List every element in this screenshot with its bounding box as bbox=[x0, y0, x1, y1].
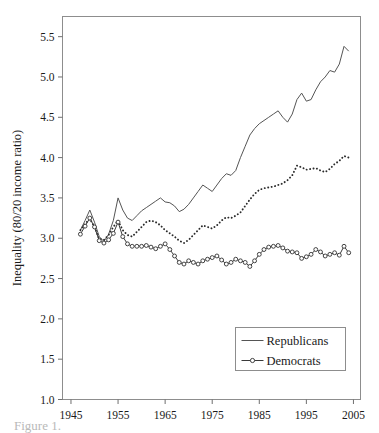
series-marker bbox=[196, 262, 200, 266]
series-marker bbox=[337, 253, 341, 257]
series-marker bbox=[234, 257, 238, 261]
series-marker bbox=[215, 254, 219, 258]
series-marker bbox=[83, 224, 87, 228]
series-marker bbox=[295, 251, 299, 255]
series-marker bbox=[149, 245, 153, 249]
y-tick-label: 3.5 bbox=[40, 192, 55, 204]
series-marker bbox=[309, 252, 313, 256]
series-marker bbox=[257, 252, 261, 256]
series-marker bbox=[220, 258, 224, 262]
series-marker bbox=[144, 244, 148, 248]
series-marker bbox=[201, 259, 205, 263]
x-tick-label: 1975 bbox=[201, 409, 224, 421]
series-marker bbox=[281, 246, 285, 250]
series-marker bbox=[206, 257, 210, 261]
series-marker bbox=[276, 244, 280, 248]
legend-label: Republicans bbox=[267, 334, 329, 348]
series-marker bbox=[107, 238, 111, 242]
x-tick-label: 2005 bbox=[342, 409, 365, 421]
series-marker bbox=[140, 244, 144, 248]
x-tick-label: 1985 bbox=[248, 409, 271, 421]
series-marker bbox=[253, 259, 257, 263]
series-marker bbox=[304, 255, 308, 259]
series-marker bbox=[319, 250, 323, 254]
series-marker bbox=[163, 242, 167, 246]
series-marker bbox=[173, 254, 177, 258]
series-marker bbox=[239, 259, 243, 263]
series-marker bbox=[328, 252, 332, 256]
series-marker bbox=[135, 244, 139, 248]
series-marker bbox=[342, 244, 346, 248]
series-marker bbox=[187, 259, 191, 263]
series-marker bbox=[121, 235, 125, 239]
y-tick-label: 2.0 bbox=[40, 313, 55, 325]
series-marker bbox=[262, 248, 266, 252]
series-marker bbox=[300, 256, 304, 260]
y-tick-label: 2.5 bbox=[40, 273, 55, 285]
series-marker bbox=[177, 260, 181, 264]
y-tick-label: 1.5 bbox=[40, 353, 55, 365]
series-marker bbox=[182, 262, 186, 266]
series-marker bbox=[78, 232, 82, 236]
series-marker bbox=[97, 239, 101, 243]
series-marker bbox=[116, 220, 120, 224]
series-marker bbox=[271, 244, 275, 248]
series-marker bbox=[347, 251, 351, 255]
series-marker bbox=[210, 256, 214, 260]
y-tick-label: 4.5 bbox=[40, 111, 55, 123]
series-marker bbox=[224, 262, 228, 266]
chart-legend: RepublicansDemocrats bbox=[236, 328, 346, 371]
series-marker bbox=[248, 265, 252, 269]
series-marker bbox=[158, 244, 162, 248]
series-marker bbox=[102, 241, 106, 245]
y-tick-label: 1.0 bbox=[40, 394, 55, 406]
series-marker bbox=[111, 231, 115, 235]
x-tick-label: 1945 bbox=[59, 409, 82, 421]
series-marker bbox=[93, 225, 97, 229]
y-tick-label: 5.5 bbox=[40, 31, 55, 43]
series-marker bbox=[168, 248, 172, 252]
series-marker bbox=[191, 260, 195, 264]
y-axis-title: Inequality (80/20 income ratio) bbox=[10, 130, 24, 287]
series-marker bbox=[154, 247, 158, 251]
series-marker bbox=[290, 250, 294, 254]
series-marker bbox=[323, 254, 327, 258]
x-tick-label: 1965 bbox=[154, 409, 177, 421]
series-marker bbox=[229, 260, 233, 264]
legend-label: Democrats bbox=[267, 354, 321, 368]
series-marker bbox=[286, 249, 290, 253]
series-marker bbox=[126, 242, 130, 246]
series-marker bbox=[314, 248, 318, 252]
series-marker bbox=[267, 245, 271, 249]
series-marker bbox=[333, 251, 337, 255]
series-marker bbox=[130, 244, 134, 248]
y-tick-label: 5.0 bbox=[40, 71, 55, 83]
series-marker bbox=[243, 260, 247, 264]
legend-marker-swatch bbox=[250, 358, 254, 362]
x-tick-label: 1955 bbox=[107, 409, 130, 421]
y-tick-label: 3.0 bbox=[40, 232, 55, 244]
inequality-line-chart: 1.01.52.02.53.03.54.04.55.05.5 194519551… bbox=[0, 0, 379, 433]
y-tick-label: 4.0 bbox=[40, 152, 55, 164]
x-tick-label: 1995 bbox=[295, 409, 318, 421]
chart-canvas: 1.01.52.02.53.03.54.04.55.05.5 194519551… bbox=[0, 0, 379, 433]
figure-caption: Figure 1. bbox=[14, 418, 61, 433]
series-marker bbox=[88, 216, 92, 220]
